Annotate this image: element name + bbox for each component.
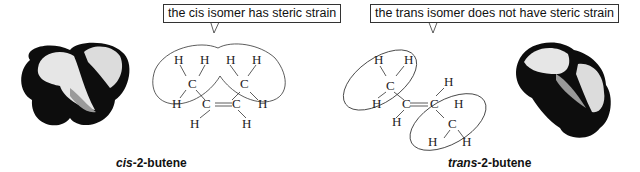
svg-text:H: H xyxy=(444,74,453,89)
svg-text:H: H xyxy=(242,116,251,131)
svg-text:H: H xyxy=(174,52,183,67)
cis-callout: the cis isomer has steric strain xyxy=(163,4,341,23)
cis-caption: cis-2-butene xyxy=(116,156,187,170)
svg-text:C: C xyxy=(448,116,457,131)
cis-electrostatic-map xyxy=(21,43,129,126)
svg-text:C: C xyxy=(188,76,197,91)
svg-text:H: H xyxy=(404,52,413,67)
diagram-canvas: HH HH CC HC CH HH HH C HCC HH HC HH xyxy=(0,0,640,172)
svg-text:H: H xyxy=(374,52,383,67)
cis-atoms: HH HH CC HC CH HH xyxy=(172,52,267,131)
svg-text:C: C xyxy=(430,96,439,111)
trans-caption-prefix: trans xyxy=(448,156,477,170)
svg-text:H: H xyxy=(190,116,199,131)
svg-text:H: H xyxy=(226,52,235,67)
svg-text:H: H xyxy=(454,96,463,111)
trans-electrostatic-map xyxy=(516,42,611,137)
cis-caption-suffix: -2-butene xyxy=(133,156,187,170)
svg-text:H: H xyxy=(200,52,209,67)
svg-text:H: H xyxy=(252,52,261,67)
svg-text:C: C xyxy=(240,76,249,91)
svg-text:C: C xyxy=(402,96,411,111)
trans-caption-suffix: -2-butene xyxy=(477,156,531,170)
trans-callout: the trans isomer does not have steric st… xyxy=(370,4,619,23)
svg-text:H: H xyxy=(258,96,267,111)
svg-text:H: H xyxy=(392,114,401,129)
cis-caption-prefix: cis xyxy=(116,156,133,170)
trans-atoms: HH C HCC HH HC HH xyxy=(372,52,471,149)
trans-caption: trans-2-butene xyxy=(448,156,531,170)
svg-text:C: C xyxy=(386,78,395,93)
svg-text:C: C xyxy=(202,96,211,111)
svg-text:C: C xyxy=(232,96,241,111)
svg-text:H: H xyxy=(462,134,471,149)
svg-text:H: H xyxy=(372,96,381,111)
svg-text:H: H xyxy=(428,134,437,149)
svg-text:H: H xyxy=(172,96,181,111)
